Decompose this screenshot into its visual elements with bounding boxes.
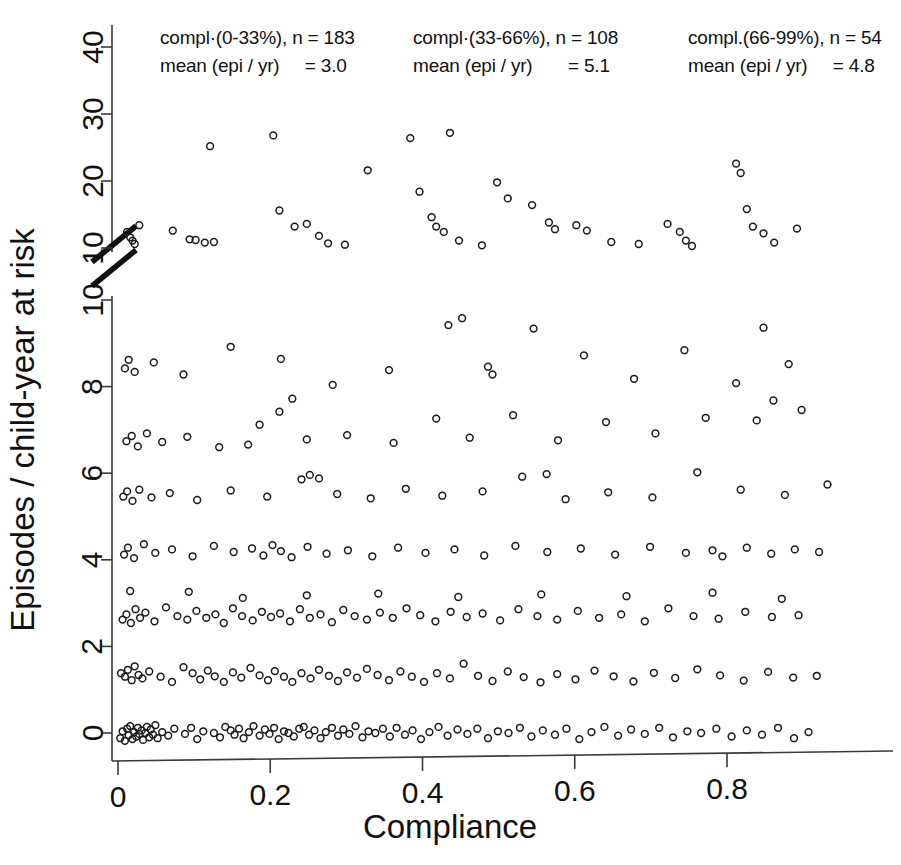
data-point <box>151 618 158 625</box>
data-point <box>317 735 324 742</box>
data-point <box>573 222 580 229</box>
group-annotation-line: mean (epi / yr) = 3.0 <box>160 55 347 76</box>
data-point <box>216 444 223 451</box>
data-point <box>769 614 776 621</box>
data-point <box>184 616 191 623</box>
data-point <box>268 614 275 621</box>
data-point <box>322 729 329 736</box>
data-point <box>289 395 296 402</box>
data-point <box>456 237 463 244</box>
y-ticklabel-lower-6: 6 <box>76 465 109 482</box>
data-point <box>342 241 349 248</box>
data-point <box>230 605 237 612</box>
data-point <box>543 471 550 478</box>
data-point <box>291 223 298 230</box>
data-point <box>581 352 588 359</box>
data-point <box>311 727 318 734</box>
data-point <box>386 367 393 374</box>
data-point <box>403 605 410 612</box>
data-point <box>782 492 789 499</box>
data-point <box>555 437 562 444</box>
group-annotation-line: compl.(66-99%), n = 54 <box>688 27 882 48</box>
data-point <box>681 347 688 354</box>
data-point <box>534 613 541 620</box>
data-point <box>236 725 243 732</box>
data-point <box>791 735 798 742</box>
data-point <box>125 544 132 551</box>
data-point <box>163 604 170 611</box>
data-point <box>334 491 341 498</box>
data-point <box>447 129 454 136</box>
data-point <box>306 614 313 621</box>
data-point <box>603 419 610 426</box>
data-point <box>530 325 537 332</box>
data-point <box>485 735 492 742</box>
data-point <box>281 673 288 680</box>
data-point <box>728 733 735 740</box>
data-point <box>618 611 625 618</box>
data-point <box>144 430 151 437</box>
data-point <box>141 541 148 548</box>
data-point <box>290 733 297 740</box>
data-point <box>733 160 740 167</box>
y-ticklabel-upper-20: 20 <box>76 164 109 197</box>
data-point <box>316 475 323 482</box>
data-point <box>628 726 635 733</box>
data-point <box>562 496 569 503</box>
data-point <box>760 324 767 331</box>
data-point <box>211 673 218 680</box>
data-point <box>683 237 690 244</box>
data-point <box>813 672 820 679</box>
data-point <box>717 672 724 679</box>
data-point <box>207 143 214 150</box>
data-point <box>340 726 347 733</box>
data-point <box>715 615 722 622</box>
data-point <box>239 613 246 620</box>
data-point <box>132 606 139 613</box>
y-ticklabel-lower-0: 0 <box>76 725 109 742</box>
data-point <box>495 728 502 735</box>
data-point <box>798 407 805 414</box>
data-point <box>142 609 149 616</box>
data-point <box>307 675 314 682</box>
data-point <box>709 547 716 554</box>
data-point <box>740 677 747 684</box>
data-point <box>805 729 812 736</box>
data-point <box>372 730 379 737</box>
data-point <box>246 729 253 736</box>
data-point <box>359 734 366 741</box>
data-point <box>386 733 393 740</box>
data-point <box>479 610 486 617</box>
data-point <box>641 731 648 738</box>
data-point <box>351 613 358 620</box>
data-point <box>249 617 256 624</box>
data-point <box>340 607 347 614</box>
data-point <box>454 726 461 733</box>
data-point <box>128 433 135 440</box>
data-point <box>227 727 234 734</box>
data-point <box>460 660 467 667</box>
data-point <box>512 543 519 550</box>
data-point <box>250 723 257 730</box>
data-point <box>546 219 553 226</box>
data-point <box>737 170 744 177</box>
data-point <box>247 665 254 672</box>
data-point <box>303 436 310 443</box>
data-point <box>676 229 683 236</box>
data-point <box>180 664 187 671</box>
data-point <box>608 239 615 246</box>
data-point <box>266 731 273 738</box>
data-point <box>211 543 218 550</box>
data-point <box>174 613 181 620</box>
data-point <box>824 481 831 488</box>
data-point <box>539 727 546 734</box>
data-point <box>479 242 486 249</box>
data-point <box>260 552 267 559</box>
data-point <box>329 619 336 626</box>
x-axis-line <box>112 751 893 761</box>
data-point <box>152 550 159 557</box>
data-point <box>389 614 396 621</box>
data-point <box>189 670 196 677</box>
data-point <box>377 609 384 616</box>
x-ticklabel-0.6: 0.6 <box>554 774 596 807</box>
